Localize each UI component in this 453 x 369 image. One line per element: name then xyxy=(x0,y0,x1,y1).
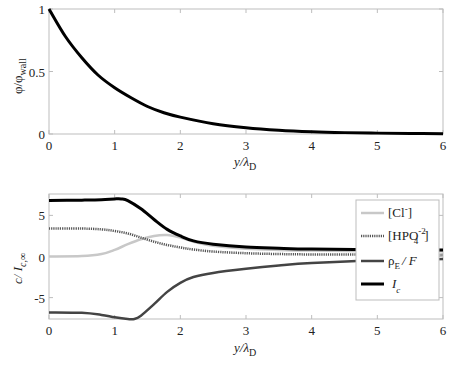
bottom-x-axis-label: y/λD xyxy=(232,340,256,358)
y-tick-label: -5 xyxy=(34,291,45,306)
y-tick-label: 0.5 xyxy=(29,65,45,80)
top-x-axis-label: y/λD xyxy=(232,154,256,172)
x-tick-label: 2 xyxy=(177,323,184,338)
bottom-y-axis-label: c/ Ic,∞ xyxy=(10,253,28,284)
bottom-panel: 0123456 -505 y/λD c/ Ic,∞ [Cl-] [HPO-24]… xyxy=(10,194,447,358)
x-tick-label: 0 xyxy=(46,323,53,338)
x-tick-label: 4 xyxy=(308,138,315,153)
y-tick-label: 1 xyxy=(39,2,46,17)
x-tick-label: 1 xyxy=(111,138,118,153)
figure: 0123456 00.51 y/λD φ/φwall 0123456 -505 … xyxy=(0,0,453,369)
top-panel: 0123456 00.51 y/λD φ/φwall xyxy=(10,2,447,172)
top-series xyxy=(49,9,443,134)
y-tick-label: 0 xyxy=(39,127,46,142)
x-tick-label: 4 xyxy=(308,323,315,338)
x-tick-label: 2 xyxy=(177,138,184,153)
y-tick-label: 5 xyxy=(39,208,46,223)
svg-text:[Cl-]: [Cl-] xyxy=(388,204,412,220)
y-tick-label: 0 xyxy=(39,250,46,265)
x-tick-label: 6 xyxy=(440,138,447,153)
x-tick-label: 5 xyxy=(374,323,381,338)
x-tick-label: 1 xyxy=(111,323,118,338)
x-tick-label: 5 xyxy=(374,138,381,153)
x-tick-label: 0 xyxy=(46,138,53,153)
series-line xyxy=(49,9,443,134)
top-y-axis-label: φ/φwall xyxy=(10,58,28,94)
legend: [Cl-] [HPO-24] ρE/ F Ic xyxy=(356,200,439,300)
x-tick-label: 6 xyxy=(440,323,447,338)
top-y-ticks: 00.51 xyxy=(29,2,443,142)
x-tick-label: 3 xyxy=(243,138,250,153)
x-tick-label: 3 xyxy=(243,323,250,338)
top-plot-frame xyxy=(49,9,443,134)
